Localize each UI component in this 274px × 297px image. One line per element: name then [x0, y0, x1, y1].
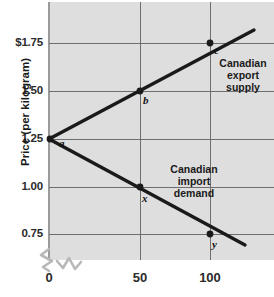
export-supply-label-line3: supply [212, 81, 274, 93]
x-tick-label-100: 100 [190, 270, 230, 285]
gridline-y-0.75 [49, 234, 274, 235]
point-label-b: b [143, 94, 149, 106]
point-label-a: a [59, 137, 65, 149]
gridline-y-1.75 [49, 43, 274, 44]
export-supply-label-line1: Canadian [212, 57, 274, 69]
gridline-y-1.25 [49, 139, 274, 140]
gridline-x-100 [210, 2, 211, 260]
point-label-x: x [142, 192, 148, 204]
point-label-c: c [214, 44, 219, 56]
chart-figure: $1.75 1.50 1.25 1.00 0.75 0 50 100 Price… [0, 0, 274, 297]
export-supply-label: Canadian export supply [212, 57, 274, 94]
x-tick-label-0: 0 [29, 270, 69, 285]
import-demand-label-line3: demand [155, 187, 233, 199]
y-tick-label-0.75: 0.75 [0, 227, 43, 239]
x-tick-label-50: 50 [120, 270, 160, 285]
import-demand-label-line1: Canadian [155, 163, 233, 175]
y-axis-line [48, 2, 50, 260]
plot-area [49, 2, 274, 260]
import-demand-label-line2: import [155, 175, 233, 187]
import-demand-label: Canadian import demand [155, 163, 233, 200]
gridline-x-50 [140, 2, 141, 260]
export-supply-label-line2: export [212, 69, 274, 81]
y-axis-title: Price (per kilogram) [19, 37, 31, 187]
point-label-y: y [212, 238, 217, 250]
